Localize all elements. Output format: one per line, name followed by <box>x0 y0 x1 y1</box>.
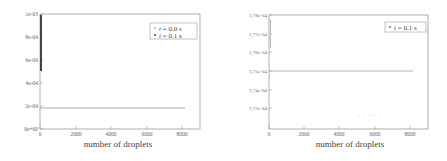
svg-text:t = 0.1 s: t = 0.1 s <box>159 32 182 40</box>
left-ytick: 0e+00 <box>24 126 38 132</box>
left-ytick: 8e-04 <box>25 34 38 40</box>
right-xtick: 2000 <box>299 131 310 137</box>
left-ytick: 6e-04 <box>25 57 38 63</box>
right-chart: 1,73e-04 1,74e-04 1,75e-04 1,76e-04 1,77… <box>222 0 447 161</box>
left-legend: t = 0.0 s t = 0.1 s <box>150 23 197 40</box>
right-legend-label-0: = 0.1 s <box>396 24 417 32</box>
right-legend: t = 0.1 s <box>385 22 426 32</box>
right-series-t1 <box>269 20 413 116</box>
right-xtick: 6000 <box>370 131 381 137</box>
left-xtick: 4000 <box>106 131 117 137</box>
left-chart: 0e+00 2e-04 4e-04 6e-04 8e-04 1e-03 0 20… <box>0 0 222 161</box>
right-x-axis: 0 2000 4000 6000 8000 <box>268 126 416 137</box>
right-ytick: 1,74e-04 <box>249 88 267 94</box>
left-xtick: 6000 <box>142 131 153 137</box>
left-xtick: 0 <box>39 131 42 137</box>
left-xlabel: number of droplets <box>84 139 153 149</box>
right-ytick: 1,78e-04 <box>249 13 267 19</box>
right-ytick: 1,76e-04 <box>249 50 267 56</box>
left-x-axis: 0 2000 4000 6000 8000 <box>39 126 188 137</box>
right-xtick: 8000 <box>405 131 416 137</box>
left-legend-label-1: = 0.1 s <box>161 32 182 40</box>
right-ytick: 1,73e-04 <box>249 106 267 112</box>
left-ytick: 1e-03 <box>25 11 38 17</box>
left-ytick: 2e-04 <box>25 103 38 109</box>
right-ytick: 1,77e-04 <box>249 32 267 38</box>
right-ytick: 1,75e-04 <box>249 69 267 75</box>
left-xtick: 2000 <box>71 131 82 137</box>
right-xlabel: number of droplets <box>316 139 385 149</box>
left-ytick: 4e-04 <box>25 80 38 86</box>
svg-text:t = 0.1 s: t = 0.1 s <box>394 24 417 32</box>
right-xtick: 4000 <box>334 131 345 137</box>
left-xtick: 8000 <box>177 131 188 137</box>
right-xtick: 0 <box>268 131 271 137</box>
left-series-t0 <box>40 15 42 71</box>
